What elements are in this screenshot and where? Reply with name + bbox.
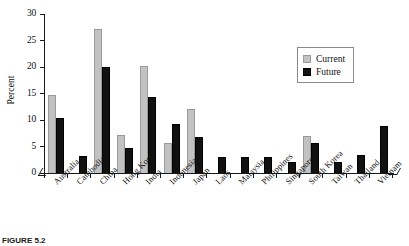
- bar-group: [71, 14, 87, 173]
- bar-current: [48, 95, 56, 173]
- legend-swatch-current-icon: [303, 55, 311, 63]
- figure-caption: FIGURE 5.2: [2, 236, 407, 246]
- bar-future: [56, 118, 64, 173]
- legend-item-current: Current: [303, 52, 345, 65]
- x-axis-tick: [44, 174, 45, 178]
- y-axis-tick-label: 15: [14, 89, 36, 99]
- y-axis-tick-label: 25: [14, 36, 36, 46]
- bar-future: [172, 124, 180, 173]
- y-axis-tick-label: 0: [14, 168, 36, 178]
- y-axis-tick-label: 20: [14, 62, 36, 72]
- chart-legend: Current Future: [297, 47, 354, 83]
- y-axis-tick-label: 30: [14, 9, 36, 19]
- bar-group: [349, 14, 365, 173]
- legend-label-current: Current: [316, 54, 345, 64]
- bar-current: [164, 143, 172, 173]
- bar-group: [256, 14, 272, 173]
- bar-group: [94, 14, 110, 173]
- bar-current: [117, 135, 125, 173]
- legend-label-future: Future: [316, 67, 341, 77]
- figure-bar-chart: Percent 051015202530 AustraliaCambodiaCh…: [0, 0, 409, 246]
- y-axis-tick-label: 10: [14, 115, 36, 125]
- bar-current: [94, 29, 102, 173]
- bar-group: [372, 14, 388, 173]
- bar-group: [233, 14, 249, 173]
- bar-group: [303, 14, 319, 173]
- bar-group: [280, 14, 296, 173]
- figure-caption-label: FIGURE 5.2: [2, 236, 46, 245]
- bar-group: [187, 14, 203, 173]
- legend-swatch-future-icon: [303, 68, 311, 76]
- bar-group: [140, 14, 156, 173]
- bar-group: [164, 14, 180, 173]
- bar-group: [210, 14, 226, 173]
- bar-group: [117, 14, 133, 173]
- legend-item-future: Future: [303, 65, 345, 78]
- bar-group: [48, 14, 64, 173]
- y-axis-tick-label: 5: [14, 142, 36, 152]
